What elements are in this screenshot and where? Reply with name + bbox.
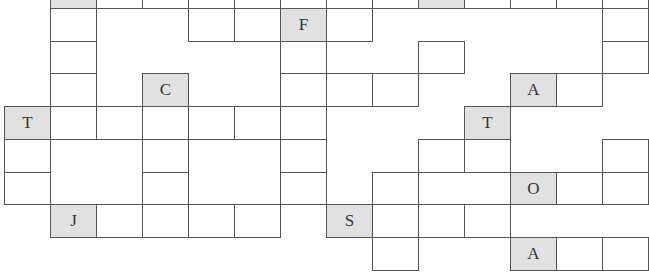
grid-cell[interactable] [50, 73, 97, 107]
grid-cell[interactable] [188, 8, 235, 42]
grid-cell-letter-t[interactable]: T [464, 106, 511, 140]
grid-cell[interactable] [602, 139, 649, 173]
grid-cell[interactable] [4, 172, 51, 205]
grid-cell[interactable] [188, 204, 235, 238]
grid-cell[interactable] [602, 8, 649, 42]
grid-cell[interactable] [234, 204, 281, 238]
grid-cell[interactable] [96, 204, 143, 238]
grid-cell[interactable] [556, 237, 603, 271]
grid-cell[interactable] [280, 106, 327, 140]
grid-cell[interactable] [602, 41, 649, 74]
grid-cell[interactable] [142, 204, 189, 238]
grid-cell[interactable] [280, 172, 327, 205]
grid-cell[interactable] [372, 204, 419, 238]
grid-cell[interactable] [234, 106, 281, 140]
grid-cell[interactable] [602, 237, 649, 271]
grid-cell[interactable] [464, 139, 511, 173]
grid-cell[interactable] [142, 0, 189, 9]
grid-cell[interactable] [602, 172, 649, 205]
grid-cell[interactable] [464, 204, 511, 238]
grid-cell[interactable] [280, 73, 327, 107]
grid-cell[interactable] [372, 73, 419, 107]
grid-cell[interactable] [142, 172, 189, 205]
grid-cell[interactable] [96, 0, 143, 9]
grid-cell-letter-a[interactable]: A [510, 237, 557, 271]
grid-cell-letter-s[interactable]: S [326, 204, 373, 238]
grid-cell[interactable] [50, 41, 97, 74]
grid-cell[interactable] [372, 237, 419, 271]
grid-cell[interactable] [96, 106, 143, 140]
grid-cell[interactable] [234, 8, 281, 42]
grid-cell-letter-a[interactable]: A [510, 73, 557, 107]
grid-cell[interactable] [50, 8, 97, 42]
grid-cell[interactable] [418, 41, 465, 74]
grid-cell[interactable] [326, 73, 373, 107]
grid-cell[interactable] [142, 139, 189, 173]
grid-cell[interactable] [50, 106, 97, 140]
grid-cell[interactable] [280, 41, 327, 74]
grid-cell-letter-f[interactable]: F [280, 8, 327, 42]
grid-cell-letter-c[interactable]: C [142, 73, 189, 107]
grid-cell[interactable] [4, 139, 51, 173]
grid-cell-letter-o[interactable]: O [510, 172, 557, 205]
grid-cell-letter-j[interactable]: J [50, 204, 97, 238]
grid-cell[interactable] [418, 0, 465, 9]
grid-cell[interactable] [326, 8, 373, 42]
grid-cell[interactable] [280, 139, 327, 173]
grid-cell[interactable] [372, 172, 419, 205]
grid-cell[interactable] [418, 204, 465, 238]
grid-cell[interactable] [188, 106, 235, 140]
grid-cell[interactable] [142, 106, 189, 140]
grid-cell[interactable] [510, 0, 557, 9]
grid-cell[interactable] [556, 172, 603, 205]
grid-cell[interactable] [464, 0, 511, 9]
grid-cell[interactable] [556, 0, 603, 9]
grid-cell[interactable] [556, 73, 603, 107]
grid-cell-letter-t[interactable]: T [4, 106, 51, 140]
grid-cell[interactable] [372, 0, 419, 9]
grid-cell[interactable] [418, 139, 465, 173]
